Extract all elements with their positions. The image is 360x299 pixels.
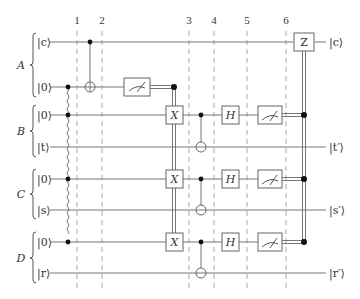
- entangle-dot-c: [66, 177, 71, 182]
- z-gate: Z: [294, 33, 314, 51]
- entangle-dot-a: [66, 85, 71, 90]
- output-label-c: |c⟩: [329, 36, 343, 50]
- quantum-circuit-diagram: 1 2 3 4 5 6 A B C D |c⟩ |0⟩ |0⟩ |t⟩ |0⟩ …: [0, 0, 360, 299]
- input-label-b0: |0⟩: [37, 109, 52, 123]
- measurement-meter-icon-d: [258, 233, 282, 251]
- cnot-gate-d-r: [196, 240, 206, 278]
- step-label-1: 1: [74, 14, 80, 26]
- svg-text:X: X: [170, 173, 180, 186]
- classical-control-dot-a: [171, 84, 177, 90]
- measurement-meter-icon-c: [258, 170, 282, 188]
- classical-control-dot-b: [301, 112, 307, 118]
- output-label-t: |t′⟩: [329, 141, 344, 155]
- entanglement-wavy-line: [67, 87, 69, 234]
- input-label-d0: |0⟩: [37, 236, 52, 250]
- input-label-s: |s⟩: [37, 204, 51, 218]
- step-label-5: 5: [244, 14, 250, 26]
- measurement-meter-icon-b: [258, 106, 282, 124]
- output-label-s: |s′⟩: [329, 204, 345, 218]
- svg-text:H: H: [225, 173, 236, 186]
- h-gate-c: H: [222, 170, 239, 188]
- svg-text:Z: Z: [300, 36, 308, 49]
- classical-control-dot-d: [301, 239, 307, 245]
- svg-text:H: H: [225, 109, 236, 122]
- step-label-6: 6: [283, 14, 289, 26]
- input-label-r: |r⟩: [37, 267, 50, 281]
- entangle-dot-b: [66, 113, 71, 118]
- input-label-c: |c⟩: [37, 36, 51, 50]
- entangle-dot-d: [66, 240, 71, 245]
- step-label-3: 3: [186, 14, 192, 26]
- svg-text:H: H: [225, 236, 236, 249]
- register-label-a: A: [16, 59, 25, 72]
- h-gate-b: H: [222, 106, 239, 124]
- input-label-t: |t⟩: [37, 141, 49, 155]
- cnot-gate-step1: [85, 40, 95, 92]
- x-gate-d: X: [166, 233, 183, 251]
- cnot-gate-b-t: [196, 113, 206, 152]
- register-label-b: B: [16, 125, 25, 138]
- classical-control-dot-c: [301, 176, 307, 182]
- x-gate-c: X: [166, 170, 183, 188]
- svg-text:X: X: [170, 109, 180, 122]
- step-label-4: 4: [211, 14, 217, 26]
- cnot-gate-c-s: [196, 177, 206, 215]
- register-label-c: C: [17, 188, 26, 201]
- register-label-d: D: [16, 252, 26, 265]
- step-label-2: 2: [99, 14, 105, 26]
- h-gate-d: H: [222, 233, 239, 251]
- svg-text:X: X: [170, 236, 180, 249]
- register-braces: [30, 33, 36, 283]
- x-gate-b: X: [166, 106, 183, 124]
- measurement-meter-icon-a: [124, 78, 150, 96]
- input-label-c0: |0⟩: [37, 173, 52, 187]
- output-label-r: |r′⟩: [329, 267, 345, 281]
- qubit-wires: [50, 42, 326, 273]
- input-label-a0: |0⟩: [37, 81, 52, 95]
